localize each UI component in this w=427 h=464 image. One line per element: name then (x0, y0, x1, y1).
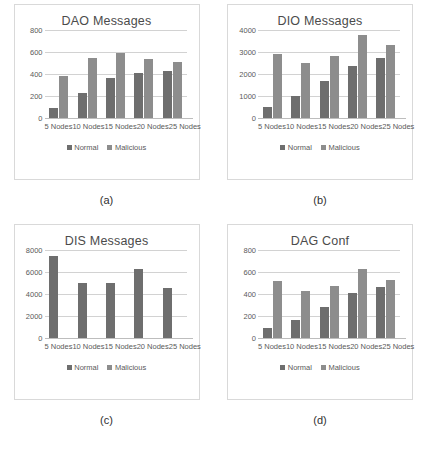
legend-label: Normal (288, 143, 312, 152)
bar-malicious (301, 291, 310, 338)
bar-group (286, 30, 314, 118)
legend-label: Malicious (115, 143, 146, 152)
legend-swatch-icon (67, 145, 72, 150)
bar-normal (134, 73, 143, 118)
bar-malicious (59, 76, 68, 118)
legend-swatch-icon (321, 365, 326, 370)
legend-swatch-icon (280, 145, 285, 150)
x-axis-tick-label: 5 Nodes (45, 122, 73, 131)
bar-malicious (330, 56, 339, 118)
chart-frame: DIO Messages010002000300040005 Nodes10 N… (227, 4, 413, 180)
y-axis-tick-label: 200 (30, 92, 43, 101)
bar-group (258, 250, 286, 338)
x-axis-tick-label: 5 Nodes (258, 122, 286, 131)
bar-normal (320, 81, 329, 118)
bar-normal (348, 293, 357, 338)
bar-group (130, 250, 158, 338)
legend-swatch-icon (107, 145, 112, 150)
y-axis-tick-label: 0 (252, 334, 256, 343)
x-axis-tick-label: 5 Nodes (258, 342, 286, 351)
x-axis-tick-label: 20 Nodes (350, 122, 382, 131)
y-axis-tick-label: 3000 (239, 48, 256, 57)
subfigure-caption: (b) (313, 194, 326, 206)
chart-frame: DIS Messages020004000600080005 Nodes10 N… (14, 224, 200, 400)
bar-normal (263, 107, 272, 118)
plot-canvas (45, 250, 187, 338)
bar-malicious (88, 58, 97, 119)
y-axis-tick-label: 400 (30, 70, 43, 79)
y-axis-tick-label: 400 (243, 290, 256, 299)
y-axis-tick-label: 2000 (26, 312, 43, 321)
bar-malicious (330, 286, 339, 338)
bar-malicious (386, 280, 395, 338)
legend-item-malicious: Malicious (321, 143, 360, 152)
x-axis-tick-label: 10 Nodes (286, 342, 318, 351)
bar-group (130, 30, 158, 118)
bar-group (158, 30, 186, 118)
bar-normal (106, 283, 115, 338)
bar-normal (134, 269, 143, 338)
bar-malicious (116, 53, 125, 118)
bar-normal (163, 288, 172, 338)
bar-group (101, 250, 129, 338)
bar-normal (320, 307, 329, 338)
y-axis-tick-label: 2000 (239, 70, 256, 79)
y-axis-tick-label: 0 (38, 334, 42, 343)
legend-label: Malicious (115, 363, 146, 372)
figure-panel-dio-messages: DIO Messages010002000300040005 Nodes10 N… (213, 0, 427, 220)
subfigure-caption: (d) (313, 414, 326, 426)
bar-group (45, 250, 73, 338)
legend-label: Normal (288, 363, 312, 372)
bar-normal (49, 256, 58, 338)
y-axis: 01000200030004000 (228, 30, 256, 118)
bar-group (45, 30, 73, 118)
bar-malicious (144, 59, 153, 118)
bar-normal (263, 328, 272, 338)
bar-group (101, 30, 129, 118)
y-axis-tick-label: 1000 (239, 92, 256, 101)
y-axis: 0200400600800 (228, 250, 256, 338)
x-axis-tick-label: 25 Nodes (382, 342, 414, 351)
chart-frame: DAG Conf02004006008005 Nodes10 Nodes15 N… (227, 224, 413, 400)
x-axis-tick-label: 20 Nodes (137, 122, 169, 131)
x-axis-tick-label: 15 Nodes (105, 342, 137, 351)
plot-area: 02000400060008000 (15, 250, 193, 338)
x-axis: 5 Nodes10 Nodes15 Nodes20 Nodes25 Nodes (258, 118, 406, 131)
x-axis: 5 Nodes10 Nodes15 Nodes20 Nodes25 Nodes (45, 118, 193, 131)
bar-malicious (173, 62, 182, 118)
x-axis-tick-label: 5 Nodes (45, 342, 73, 351)
x-axis-tick-label: 15 Nodes (105, 122, 137, 131)
bar-series-container (45, 250, 187, 338)
bar-normal (348, 66, 357, 118)
x-axis-tick-label: 25 Nodes (169, 122, 201, 131)
bar-malicious (273, 281, 282, 338)
figure-panel-grid: DAO Messages02004006008005 Nodes10 Nodes… (0, 0, 427, 440)
bar-malicious (273, 54, 282, 118)
bar-normal (78, 283, 87, 338)
y-axis-tick-label: 4000 (239, 26, 256, 35)
x-axis-tick-label: 25 Nodes (169, 342, 201, 351)
y-axis-tick-label: 600 (243, 268, 256, 277)
bar-normal (291, 96, 300, 118)
chart-legend: NormalMalicious (15, 143, 199, 152)
legend-item-normal: Normal (280, 143, 312, 152)
x-axis: 5 Nodes10 Nodes15 Nodes20 Nodes25 Nodes (45, 338, 193, 351)
y-axis-tick-label: 0 (252, 114, 256, 123)
legend-swatch-icon (280, 365, 285, 370)
bar-series-container (45, 30, 187, 118)
legend-item-malicious: Malicious (107, 143, 146, 152)
bar-group (372, 30, 400, 118)
legend-label: Normal (74, 143, 98, 152)
bar-group (158, 250, 186, 338)
y-axis-tick-label: 600 (30, 48, 43, 57)
y-axis: 0200400600800 (15, 30, 43, 118)
x-axis-tick-label: 20 Nodes (137, 342, 169, 351)
bar-group (315, 30, 343, 118)
figure-panel-dao-messages: DAO Messages02004006008005 Nodes10 Nodes… (0, 0, 213, 220)
bar-group (343, 30, 371, 118)
subfigure-caption: (a) (100, 194, 113, 206)
x-axis-tick-label: 15 Nodes (318, 342, 350, 351)
bar-series-container (258, 250, 400, 338)
plot-canvas (258, 250, 400, 338)
legend-swatch-icon (107, 365, 112, 370)
